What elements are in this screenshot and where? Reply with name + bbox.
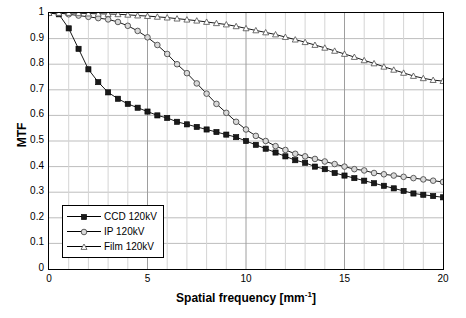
y-tick-label: 0.1 [14,237,44,247]
legend-item: CCD 120kV [67,209,157,224]
y-tick-label: 0.3 [14,186,44,196]
legend-label: CCD 120kV [101,211,157,222]
x-axis-title-exponent: -1 [305,290,312,299]
y-tick-label: 0.9 [14,33,44,43]
mtf-chart: 00.10.20.30.40.50.60.70.80.91 05101520 M… [0,0,466,318]
x-tick-label: 20 [428,273,458,284]
legend-item: IP 120kV [67,224,157,239]
y-tick-label: 0 [14,263,44,273]
legend-marker-icon [67,241,101,253]
legend-marker-icon [67,226,101,238]
legend-label: IP 120kV [101,226,144,237]
y-tick-label: 0.8 [14,58,44,68]
legend-marker-icon [67,211,101,223]
x-tick-label: 5 [133,273,163,284]
x-axis-title: Spatial frequency [mm-1] [48,290,444,305]
y-tick-label: 1 [14,7,44,17]
x-tick-label: 15 [330,273,360,284]
x-axis-title-suffix: ] [312,291,316,305]
x-axis-tick-labels: 05101520 [48,273,448,287]
legend-label: Film 120kV [101,241,154,252]
y-tick-label: 0.2 [14,212,44,222]
x-tick-label: 0 [34,273,64,284]
legend: CCD 120kVIP 120kVFilm 120kV [62,205,164,258]
legend-item: Film 120kV [67,239,157,254]
x-axis-title-text: Spatial frequency [mm [176,291,305,305]
y-tick-label: 0.7 [14,84,44,94]
y-axis-title: MTF [15,95,29,175]
x-tick-label: 10 [231,273,261,284]
